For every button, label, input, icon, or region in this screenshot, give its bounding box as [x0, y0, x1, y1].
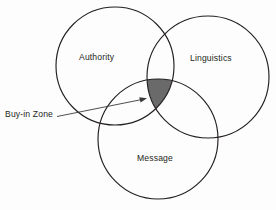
shaded-region-clip-c — [0, 0, 276, 210]
callout-label-buy-in-zone: Buy-in Zone — [5, 110, 53, 119]
venn-canvas — [0, 0, 276, 210]
buy-in-zone-arrow-head-icon — [139, 97, 147, 102]
shaded-region-clip-a — [0, 0, 276, 210]
shaded-region-clip-b — [0, 0, 276, 210]
circle-label-message: Message — [137, 154, 173, 163]
venn-diagram-figure: Authority Linguistics Message Buy-in Zon… — [0, 0, 276, 210]
buy-in-zone-shaded-region — [0, 0, 276, 210]
circle-label-linguistics: Linguistics — [190, 54, 232, 63]
circle-label-authority: Authority — [79, 53, 114, 62]
buy-in-zone-leader-line — [57, 100, 142, 117]
